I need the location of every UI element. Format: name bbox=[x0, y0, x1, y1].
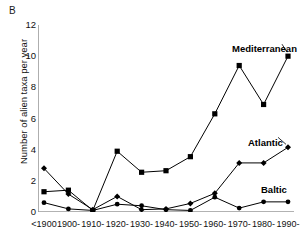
x-tick-label: 1940- bbox=[154, 220, 177, 229]
data-point bbox=[139, 203, 144, 208]
data-point bbox=[212, 111, 217, 116]
data-point bbox=[41, 189, 46, 194]
x-tick-label: 1990- bbox=[276, 220, 299, 229]
data-point bbox=[163, 168, 168, 173]
data-point bbox=[66, 206, 71, 211]
data-point bbox=[261, 160, 267, 166]
data-point bbox=[285, 54, 290, 59]
x-tick-label: 1910- bbox=[81, 220, 104, 229]
x-tick-label: 1960- bbox=[203, 220, 226, 229]
data-point bbox=[237, 63, 242, 68]
y-tick-label: 0 bbox=[14, 207, 36, 217]
x-tick-label: 1920- bbox=[106, 220, 129, 229]
series-line-mediterranean bbox=[44, 56, 288, 210]
data-point bbox=[261, 102, 266, 107]
x-tick-label: 1950- bbox=[179, 220, 202, 229]
x-tick-label: 1970- bbox=[228, 220, 251, 229]
y-tick-label: 12 bbox=[14, 20, 36, 30]
series-label-atlantic: Atlantic bbox=[248, 137, 283, 148]
data-point bbox=[188, 208, 193, 212]
x-tick-label: 1930- bbox=[130, 220, 153, 229]
data-point bbox=[187, 200, 193, 206]
data-point bbox=[115, 202, 120, 207]
data-point bbox=[237, 206, 242, 211]
y-tick-label: 10 bbox=[14, 51, 36, 61]
x-tick-label: 1900- bbox=[57, 220, 80, 229]
series-label-mediterranean: Mediterranean bbox=[232, 43, 297, 54]
panel-label: B bbox=[9, 5, 16, 16]
data-point bbox=[261, 199, 266, 204]
data-point bbox=[286, 199, 291, 204]
data-point bbox=[188, 154, 193, 159]
series-label-baltic: Baltic bbox=[261, 184, 287, 195]
data-point bbox=[212, 195, 217, 200]
figure-panel-b: B Number of alien taxa per year 02468101… bbox=[0, 0, 307, 242]
data-point bbox=[42, 200, 47, 205]
y-tick-label: 6 bbox=[14, 114, 36, 124]
data-point bbox=[164, 207, 169, 212]
y-tick-label: 4 bbox=[14, 145, 36, 155]
x-axis-tick-labels: <19001900-1910-1920-1930-1940-1950-1960-… bbox=[0, 218, 307, 240]
y-tick-label: 8 bbox=[14, 82, 36, 92]
x-tick-label: 1980- bbox=[252, 220, 275, 229]
data-point bbox=[115, 149, 120, 154]
y-axis-tick-labels: 024681012 bbox=[10, 25, 36, 212]
data-point bbox=[139, 170, 144, 175]
data-point bbox=[285, 144, 291, 150]
y-tick-label: 2 bbox=[14, 176, 36, 186]
data-point bbox=[114, 193, 120, 199]
x-tick-label: <1900 bbox=[31, 220, 56, 229]
